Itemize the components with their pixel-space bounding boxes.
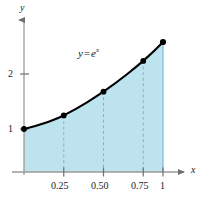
data-point-marker — [101, 89, 107, 95]
equation-exponent: x — [96, 46, 99, 54]
y-tick-label-1: 1 — [8, 123, 13, 134]
x-tick-label-1: 1 — [160, 180, 165, 191]
data-point-marker — [61, 113, 67, 119]
plot-canvas — [0, 0, 215, 202]
equation-equals-sign: = — [83, 47, 91, 59]
y-axis-label: y — [20, 2, 24, 13]
x-tick-label-050: 0.50 — [91, 180, 109, 191]
function-equation-label: y=ex — [78, 46, 99, 59]
x-axis-label: x — [191, 164, 195, 175]
x-tick-label-025: 0.25 — [51, 180, 69, 191]
data-point-marker — [160, 39, 166, 45]
data-point-marker — [21, 126, 27, 132]
y-tick-label-2: 2 — [8, 68, 13, 79]
exponential-area-figure: y x 1 2 0.25 0.50 0.75 1 y=ex — [0, 0, 215, 202]
data-point-marker — [140, 58, 146, 64]
x-tick-label-075: 0.75 — [131, 180, 149, 191]
